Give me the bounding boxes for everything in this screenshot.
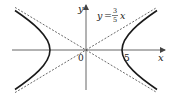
hyperbola-diagram: y x 0 5 y = 3 5 x bbox=[0, 0, 172, 100]
origin-label: 0 bbox=[78, 53, 84, 63]
vertex-label: 5 bbox=[124, 53, 130, 63]
asymptote-equation: y = 3 5 x bbox=[96, 7, 126, 24]
eq-var: x bbox=[120, 10, 126, 21]
x-axis-label: x bbox=[158, 52, 164, 63]
y-axis-label: y bbox=[77, 3, 84, 14]
eq-lhs: y bbox=[96, 10, 103, 21]
eq-sign: = bbox=[104, 10, 112, 21]
eq-denominator: 5 bbox=[113, 16, 117, 24]
eq-numerator: 3 bbox=[113, 7, 117, 15]
